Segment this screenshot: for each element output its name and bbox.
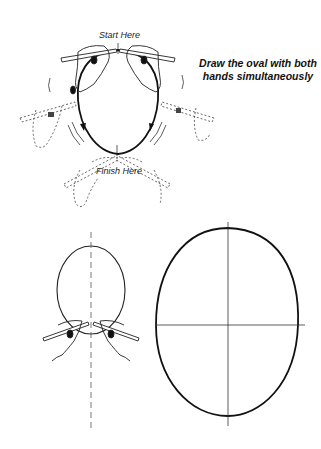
large-oval-figure [155, 222, 305, 426]
instruction-line-2: hands simultaneously [197, 70, 319, 83]
finish-here-label: Finish Here [96, 166, 142, 176]
bottom-hands-dashed-icon [64, 156, 170, 207]
instruction-text: Draw the oval with both hands simultaneo… [197, 57, 319, 83]
instruction-line-1: Draw the oval with both [197, 57, 319, 70]
oval-right-stroke [118, 50, 158, 154]
oval-left-stroke [78, 50, 118, 154]
side-hands-dashed-icon [20, 102, 214, 147]
start-here-label: Start Here [99, 30, 140, 40]
large-oval [156, 228, 298, 416]
small-oval [57, 246, 125, 334]
top-oval-figure [20, 43, 214, 207]
small-oval-figure [43, 232, 139, 432]
